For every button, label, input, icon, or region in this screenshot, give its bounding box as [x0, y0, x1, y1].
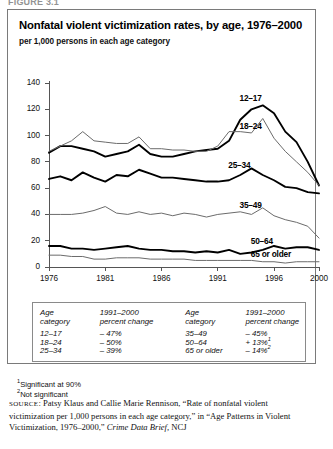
header-age-right: Age — [185, 303, 245, 318]
footnotes: 1Significant at 90% 2Not significant — [17, 380, 317, 399]
x-axis-tick-label: 1976 — [32, 274, 66, 283]
y-axis-tick-label: 20 — [16, 236, 40, 245]
header-change-right: 1991–2000 — [245, 303, 305, 318]
header-percent-left: percent change — [100, 318, 186, 327]
table-header-row: Age 1991–2000 Age 1991–2000 — [33, 303, 305, 318]
source-text-2: NCJ — [169, 422, 186, 432]
table: Age 1991–2000 Age 1991–2000 category per… — [33, 303, 305, 356]
series-label-4: 35–49 — [240, 200, 262, 210]
footnote-1: 1Significant at 90% — [17, 380, 317, 390]
y-axis-tick-label: 100 — [16, 131, 40, 140]
y-axis-tick-label: 120 — [16, 104, 40, 113]
header-percent-right: percent change — [245, 318, 305, 327]
source-prefix: SOURCE — [9, 400, 38, 408]
header-change-left: 1991–2000 — [100, 303, 186, 318]
series-label-2: 18–24 — [240, 121, 262, 131]
header-category-right: category — [185, 318, 245, 327]
y-axis-tick-label: 0 — [16, 262, 40, 271]
source-publication: Crime Data Brief, — [107, 422, 169, 432]
figure-panel: Nonfatal violent victimization rates, by… — [7, 9, 316, 364]
cell-change-left: – 39% — [100, 347, 186, 356]
x-axis-tick-label: 1986 — [145, 274, 179, 283]
table-row: 25–34 – 39% 65 or older – 14%2 — [33, 347, 305, 356]
header-category-left: category — [33, 318, 100, 327]
header-age-left: Age — [33, 303, 100, 318]
cell-age-right: 65 or older — [185, 347, 245, 356]
series-label-5: 50–64 — [251, 236, 273, 246]
series-line-1 — [49, 105, 319, 185]
x-axis-tick-label: 1996 — [257, 274, 291, 283]
series-line-4 — [49, 207, 319, 239]
x-axis-tick-label: 1991 — [201, 274, 235, 283]
footnote-text: Significant at 90% — [20, 380, 81, 389]
x-axis-tick-label: 1981 — [88, 274, 122, 283]
x-axis-tick-label: 2000 — [302, 274, 333, 283]
series-label-6: 65 or older — [251, 249, 291, 259]
series-line-3 — [49, 168, 319, 193]
table-header-row-2: category percent change category percent… — [33, 318, 305, 327]
line-chart: 0204060801001201401976198119861991199620… — [8, 10, 333, 300]
y-axis-tick-label: 40 — [16, 209, 40, 218]
percent-change-table: Age 1991–2000 Age 1991–2000 category per… — [32, 302, 306, 362]
y-axis-tick-label: 80 — [16, 157, 40, 166]
y-axis-tick-label: 140 — [16, 78, 40, 87]
source-note: SOURCE: Patsy Klaus and Callie Marie Ren… — [9, 398, 312, 434]
cell-change-right: – 14%2 — [245, 347, 305, 356]
cell-age-left: 25–34 — [33, 347, 100, 356]
y-axis-tick-label: 60 — [16, 183, 40, 192]
figure-label: FIGURE 3.1 — [8, 0, 128, 7]
series-label-1: 12–17 — [240, 93, 262, 103]
series-label-3: 25–34 — [228, 160, 250, 170]
